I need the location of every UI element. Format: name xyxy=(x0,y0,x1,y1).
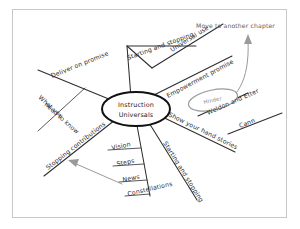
center-node-label-line1: Instruction xyxy=(118,101,154,109)
arrowhead-up-icon xyxy=(244,34,252,44)
arrowhead-upleft-icon xyxy=(68,159,79,167)
branch-label-deliver-on-promise: Deliver on promise xyxy=(50,49,110,79)
mindmap-svg: Instruction Universals Deliver on promis… xyxy=(0,0,300,229)
branch-label-starting-and-stopping-lower: Starting and stopping xyxy=(161,140,205,204)
branch-label-what-you-need-to-know-line2: need to know xyxy=(43,101,80,135)
center-node-ellipse[interactable] xyxy=(102,92,170,126)
branch-label-steps: Steps xyxy=(116,157,135,168)
annotation-move-to-another-chapter: Move to another chapter xyxy=(196,22,275,30)
mindmap-canvas: Instruction Universals Deliver on promis… xyxy=(0,0,300,229)
branch-label-news: News xyxy=(122,173,140,183)
branch-line-what-you-need-to-know xyxy=(38,88,85,131)
center-node-label-line2: Universals xyxy=(119,111,154,119)
branch-label-show-your-hand-stories: Show your hand stories xyxy=(167,111,239,152)
branch-line-cann xyxy=(228,113,282,134)
